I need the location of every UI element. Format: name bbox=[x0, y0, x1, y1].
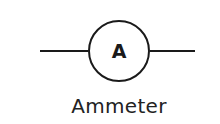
caption: Ammeter bbox=[0, 94, 220, 118]
ammeter-symbol-diagram: A Ammeter bbox=[0, 0, 220, 124]
symbol-letter: A bbox=[112, 40, 127, 62]
